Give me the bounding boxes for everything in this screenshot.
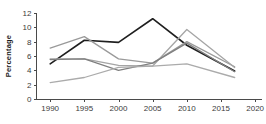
x-axis-ticks: 1990199520002005201020152020 (41, 99, 264, 113)
y-tick-label: 2 (27, 81, 32, 90)
x-tick-label: 2010 (178, 104, 196, 113)
x-tick-label: 2005 (144, 104, 162, 113)
line-chart-figure: 024681012 1990199520002005201020152020 P… (0, 0, 266, 124)
x-tick-label: 1995 (75, 104, 93, 113)
y-tick-label: 6 (27, 52, 32, 61)
y-axis-title: Percentage (4, 35, 13, 77)
x-tick-label: 2015 (212, 104, 230, 113)
plot-area (50, 19, 235, 83)
y-tick-label: 10 (23, 23, 32, 32)
y-tick-label: 4 (27, 66, 32, 75)
y-tick-label: 8 (27, 38, 32, 47)
x-tick-label: 2000 (110, 104, 128, 113)
chart-canvas: 024681012 1990199520002005201020152020 P… (0, 0, 266, 124)
series-line-series-gray-lower (50, 64, 235, 83)
series-line-series-gray-mid (50, 43, 235, 72)
x-tick-label: 1990 (41, 104, 59, 113)
y-tick-label: 12 (23, 9, 32, 18)
series-line-series-gray-upper (50, 37, 235, 67)
y-axis-ticks: 024681012 (23, 9, 37, 104)
y-tick-label: 0 (27, 95, 32, 104)
series-group (50, 19, 235, 83)
x-tick-label: 2020 (246, 104, 264, 113)
